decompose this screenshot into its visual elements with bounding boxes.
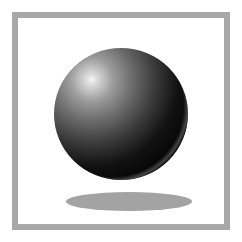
glossy-sphere (54, 48, 188, 180)
sphere-shadow (66, 192, 192, 211)
illustration-canvas (0, 0, 242, 242)
